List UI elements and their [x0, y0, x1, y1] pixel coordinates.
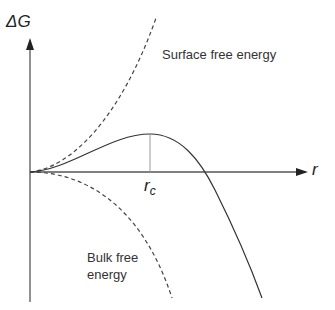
surface-energy-curve [30, 18, 156, 172]
nucleation-free-energy-diagram: ΔG r rc Surface free energy Bulk free en… [0, 0, 335, 310]
x-axis-label: r [312, 160, 318, 180]
surface-energy-label: Surface free energy [162, 47, 276, 62]
y-axis-arrow-icon [26, 38, 34, 50]
bulk-energy-label-line2: energy [87, 267, 127, 282]
y-axis-label: ΔG [6, 12, 31, 32]
bulk-energy-label-line1: Bulk free [87, 250, 138, 265]
critical-radius-label: rc [144, 176, 156, 198]
x-axis-arrow-icon [296, 168, 308, 176]
critical-radius-subscript: c [150, 184, 156, 198]
